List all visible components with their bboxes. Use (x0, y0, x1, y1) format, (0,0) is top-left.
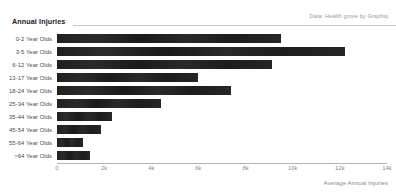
category-label: 25-34 Year Olds (0, 101, 52, 107)
x-axis-tick-label: 8k (242, 165, 248, 171)
category-label: 18-24 Year Olds (0, 88, 52, 94)
bar-row: 45-54 Year Olds (0, 123, 396, 136)
bar-row: >64 Year Olds (0, 149, 396, 162)
x-axis-tick-label: 12k (335, 165, 345, 171)
bar[interactable] (57, 138, 83, 147)
category-label: 35-44 Year Olds (0, 114, 52, 120)
annual-injuries-chart-widget: Annual Injuries Data: Health grove by Gr… (0, 0, 396, 195)
plot-area: 0-2 Year Olds3-5 Year Olds6-12 Year Olds… (0, 30, 396, 163)
x-axis-tick-label: 14k (382, 165, 392, 171)
x-axis-tick-label: 4k (148, 165, 154, 171)
bar-row: 13-17 Year Olds (0, 71, 396, 84)
bar[interactable] (57, 99, 161, 108)
bar-row: 18-24 Year Olds (0, 84, 396, 97)
category-label: 13-17 Year Olds (0, 75, 52, 81)
bar-row: 6-12 Year Olds (0, 58, 396, 71)
category-label: 6-12 Year Olds (0, 62, 52, 68)
category-label: 55-64 Year Olds (0, 140, 52, 146)
x-axis-tick-label: 2k (101, 165, 107, 171)
bar[interactable] (57, 151, 90, 160)
bar[interactable] (57, 34, 281, 43)
bar-row: 3-5 Year Olds (0, 45, 396, 58)
bar-row: 0-2 Year Olds (0, 32, 396, 45)
bar[interactable] (57, 47, 345, 56)
category-label: >64 Year Olds (0, 153, 52, 159)
bar[interactable] (57, 60, 272, 69)
page-title: Annual Injuries (0, 17, 73, 26)
category-label: 3-5 Year Olds (0, 49, 52, 55)
header-divider (73, 25, 396, 26)
x-axis-tick-label: 10k (288, 165, 298, 171)
x-axis-tick-label: 0 (55, 165, 58, 171)
bar[interactable] (57, 125, 101, 134)
bar-row: 35-44 Year Olds (0, 110, 396, 123)
x-axis-title: Average Annual Injuries (324, 180, 388, 186)
bar[interactable] (57, 112, 112, 121)
x-axis-line (57, 163, 387, 164)
bar-row: 25-34 Year Olds (0, 97, 396, 110)
category-label: 45-54 Year Olds (0, 127, 52, 133)
x-axis-tick-label: 6k (195, 165, 201, 171)
bar-row: 55-64 Year Olds (0, 136, 396, 149)
source-attribution: Data: Health grove by Graphiq (310, 13, 388, 19)
bar[interactable] (57, 86, 231, 95)
bar[interactable] (57, 73, 198, 82)
category-label: 0-2 Year Olds (0, 36, 52, 42)
